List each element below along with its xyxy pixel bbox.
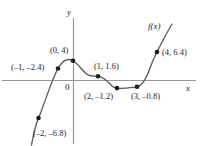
data-point bbox=[115, 86, 120, 91]
function-curve bbox=[32, 24, 173, 145]
data-point bbox=[96, 74, 101, 79]
point-label-two: (2, –1.2) bbox=[84, 92, 113, 101]
data-point bbox=[135, 85, 140, 90]
data-point bbox=[71, 59, 76, 64]
data-point bbox=[56, 66, 61, 71]
point-label-neg1: (–1, –2.4) bbox=[11, 63, 44, 72]
x-axis-label: x bbox=[186, 84, 190, 93]
data-point bbox=[36, 116, 41, 121]
origin-label: 0 bbox=[65, 83, 70, 92]
y-axis-label: y bbox=[67, 8, 71, 17]
point-label-zero: (0, 4) bbox=[50, 46, 68, 55]
point-label-four: (4, 6.4) bbox=[162, 48, 187, 57]
plot-canvas bbox=[0, 0, 205, 146]
point-label-three: (3, –0.8) bbox=[131, 92, 160, 101]
function-graph-figure: y x f(x) 0 (–2, –6.8) (–1, –2.4) (0, 4) … bbox=[0, 0, 205, 146]
data-point bbox=[155, 50, 160, 55]
point-label-one: (1, 1.6) bbox=[94, 62, 119, 71]
function-label: f(x) bbox=[148, 22, 161, 31]
point-label-neg2: (–2, –6.8) bbox=[33, 129, 66, 138]
